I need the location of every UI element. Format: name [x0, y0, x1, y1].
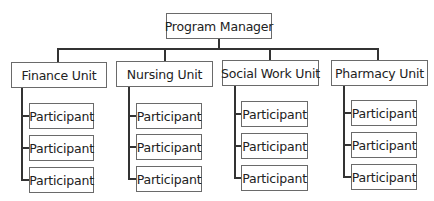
finance-branch-2	[21, 147, 29, 149]
pharmacy-branch-2	[343, 144, 351, 146]
finance-unit-box: Finance Unit	[11, 62, 107, 88]
participant-label: Participant	[242, 107, 307, 122]
participant-box: Participant	[241, 133, 308, 159]
unit-bus-line	[57, 48, 379, 50]
pharmacy-drop	[377, 48, 379, 60]
socialwork-spine	[234, 86, 236, 179]
participant-box: Participant	[136, 103, 202, 129]
participant-label: Participant	[137, 140, 202, 155]
nursing-branch-3	[128, 178, 136, 180]
finance-unit-label: Finance Unit	[22, 68, 97, 83]
participant-box: Participant	[136, 166, 202, 192]
pharmacy-unit-label: Pharmacy Unit	[335, 66, 424, 81]
participant-label: Participant	[137, 109, 202, 124]
participant-box: Participant	[351, 100, 417, 126]
participant-label: Participant	[352, 106, 417, 121]
socialwork-drop	[269, 48, 271, 60]
finance-branch-1	[21, 115, 29, 117]
nursing-unit-label: Nursing Unit	[127, 67, 202, 82]
nursing-spine	[128, 87, 130, 180]
participant-label: Participant	[352, 170, 417, 185]
participant-box: Participant	[29, 103, 94, 129]
participant-box: Participant	[29, 135, 94, 161]
pharmacy-branch-3	[343, 176, 351, 178]
participant-label: Participant	[29, 141, 94, 156]
participant-label: Participant	[137, 172, 202, 187]
participant-label: Participant	[242, 171, 307, 186]
finance-drop	[57, 48, 59, 62]
socialwork-unit-label: Social Work Unit	[221, 66, 320, 81]
participant-box: Participant	[351, 132, 417, 158]
nursing-branch-1	[128, 115, 136, 117]
pharmacy-unit-box: Pharmacy Unit	[331, 60, 428, 86]
participant-label: Participant	[29, 173, 94, 188]
participant-label: Participant	[242, 139, 307, 154]
nursing-unit-box: Nursing Unit	[116, 61, 213, 87]
socialwork-unit-box: Social Work Unit	[222, 60, 319, 86]
nursing-branch-2	[128, 146, 136, 148]
participant-box: Participant	[351, 164, 417, 190]
participant-label: Participant	[29, 109, 94, 124]
finance-spine	[21, 88, 23, 181]
pharmacy-branch-1	[343, 112, 351, 114]
program-manager-label: Program Manager	[165, 19, 274, 34]
nursing-drop	[164, 48, 166, 61]
participant-box: Participant	[241, 101, 308, 127]
participant-box: Participant	[241, 165, 308, 191]
participant-box: Participant	[136, 134, 202, 160]
program-manager-box: Program Manager	[166, 13, 272, 39]
participant-label: Participant	[352, 138, 417, 153]
pharmacy-spine	[343, 86, 345, 177]
finance-branch-3	[21, 179, 29, 181]
participant-box: Participant	[29, 167, 94, 193]
